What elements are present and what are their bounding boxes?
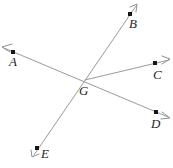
point-label-d: D (150, 116, 161, 131)
point-label-c: C (153, 67, 162, 82)
geometry-figure: A B C D E G (0, 0, 173, 168)
point-label-a: A (8, 54, 17, 69)
point-dot-c (153, 61, 157, 65)
point-dot-d (154, 110, 158, 114)
point-label-e: E (40, 146, 49, 161)
point-label-b: B (129, 16, 137, 31)
geometry-canvas: A B C D E G (0, 0, 173, 168)
arrowhead-b-icon (130, 4, 137, 12)
arrowhead-c-icon (162, 56, 170, 64)
point-dot-e (35, 146, 39, 150)
point-label-g: G (79, 83, 89, 98)
